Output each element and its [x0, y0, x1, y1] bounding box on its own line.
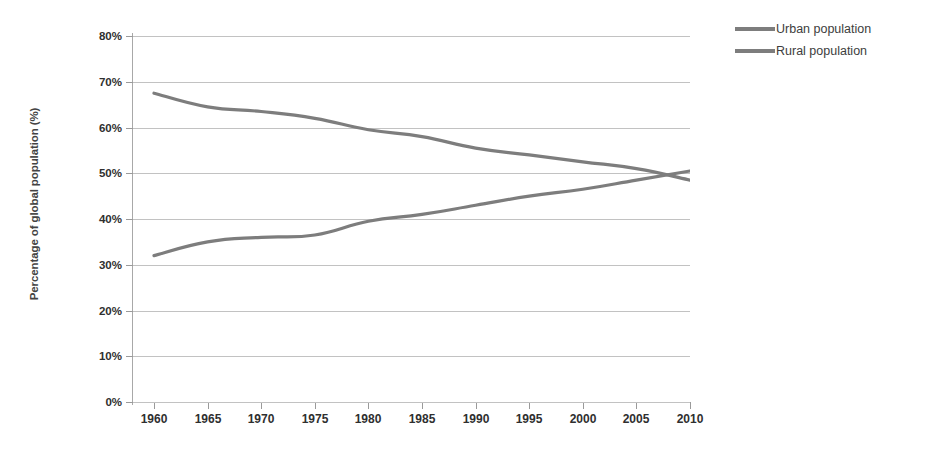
x-tick-mark: [529, 403, 530, 409]
y-axis-title: Percentage of global population (%): [28, 54, 40, 354]
x-tick-label: 2000: [553, 412, 613, 426]
x-tick-label: 1960: [124, 412, 184, 426]
x-tick-mark: [208, 403, 209, 409]
y-axis-tick-labels: 0%10%20%30%40%50%60%70%80%: [78, 0, 122, 458]
x-tick-mark: [476, 403, 477, 409]
y-tick-mark: [126, 265, 133, 266]
y-tick-mark: [126, 311, 133, 312]
x-tick-label: 1970: [231, 412, 291, 426]
x-tick-mark: [422, 403, 423, 409]
legend-item[interactable]: Urban population: [735, 18, 925, 40]
series-lines: [132, 36, 690, 402]
x-tick-label: 1965: [178, 412, 238, 426]
y-tick-mark: [126, 356, 133, 357]
x-tick-mark: [368, 403, 369, 409]
y-tick-label: 10%: [82, 350, 122, 362]
y-tick-mark: [126, 173, 133, 174]
x-tick-mark: [261, 403, 262, 409]
y-tick-label: 0%: [82, 396, 122, 408]
y-tick-label: 80%: [82, 30, 122, 42]
x-tick-label: 2005: [606, 412, 666, 426]
line-chart-figure: Percentage of global population (%) 0%10…: [0, 0, 927, 458]
legend-label-urban: Urban population: [776, 22, 871, 36]
y-tick-label: 60%: [82, 122, 122, 134]
y-tick-label: 30%: [82, 259, 122, 271]
gridline: [132, 402, 690, 403]
x-tick-mark: [154, 403, 155, 409]
series-line-rural-population: [154, 93, 690, 180]
x-tick-mark: [315, 403, 316, 409]
y-tick-mark: [126, 219, 133, 220]
x-tick-mark: [690, 403, 691, 409]
legend-item[interactable]: Rural population: [735, 40, 925, 62]
x-tick-label: 1995: [499, 412, 559, 426]
x-tick-label: 1985: [392, 412, 452, 426]
chart-legend: Urban population Rural population: [735, 18, 925, 62]
x-tick-mark: [583, 403, 584, 409]
x-tick-label: 1990: [446, 412, 506, 426]
y-tick-mark: [126, 128, 133, 129]
x-tick-mark: [636, 403, 637, 409]
y-tick-mark: [126, 402, 133, 403]
y-tick-label: 70%: [82, 76, 122, 88]
x-tick-label: 2010: [660, 412, 720, 426]
y-tick-mark: [126, 36, 133, 37]
y-tick-label: 40%: [82, 213, 122, 225]
legend-swatch-rural: [735, 49, 775, 53]
series-line-urban-population: [154, 171, 690, 256]
x-tick-label: 1975: [285, 412, 345, 426]
legend-swatch-urban: [735, 27, 775, 31]
y-tick-mark: [126, 82, 133, 83]
x-tick-label: 1980: [338, 412, 398, 426]
y-tick-label: 50%: [82, 167, 122, 179]
plot-area: [132, 36, 690, 402]
legend-label-rural: Rural population: [776, 44, 867, 58]
y-tick-label: 20%: [82, 305, 122, 317]
